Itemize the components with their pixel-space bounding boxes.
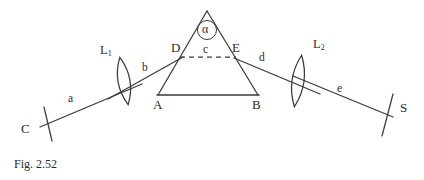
point-label-C: C bbox=[21, 122, 30, 135]
lens-L1-body bbox=[114, 56, 134, 105]
lens-label-L2: L2 bbox=[313, 38, 325, 51]
ray-label-a: a bbox=[68, 93, 73, 105]
ray-label-b: b bbox=[142, 62, 148, 74]
point-label-E: E bbox=[232, 41, 240, 54]
ray-label-e: e bbox=[337, 83, 342, 95]
lens-label-L1: L1 bbox=[100, 44, 112, 57]
optics-figure: α D E c A B C S a b d e L1 L2 Fig. 2.52 bbox=[0, 0, 424, 180]
lens-L1 bbox=[114, 56, 134, 105]
apex-angle-label: α bbox=[202, 23, 208, 35]
point-label-D: D bbox=[171, 41, 180, 54]
screen-S bbox=[382, 94, 393, 136]
ray-a-source-to-lens1 bbox=[40, 84, 142, 127]
lens-label-L2-base: L bbox=[313, 37, 321, 51]
point-label-B: B bbox=[252, 98, 261, 111]
figure-caption: Fig. 2.52 bbox=[14, 158, 57, 170]
point-label-S: S bbox=[400, 101, 407, 114]
lens-label-L1-sub: 1 bbox=[108, 49, 112, 58]
ray-diagram-canvas bbox=[0, 0, 424, 180]
ray-label-c: c bbox=[203, 44, 208, 56]
lens-label-L2-sub: 2 bbox=[321, 43, 325, 52]
ray-e-lens2-to-screen bbox=[293, 76, 393, 117]
point-label-A: A bbox=[153, 98, 162, 111]
ray-label-d: d bbox=[259, 52, 265, 64]
lens-label-L1-base: L bbox=[100, 43, 108, 57]
